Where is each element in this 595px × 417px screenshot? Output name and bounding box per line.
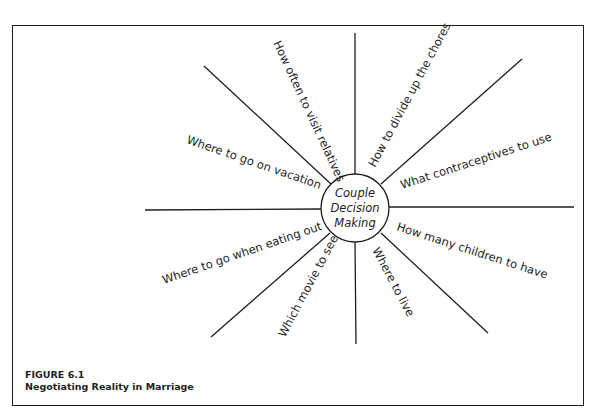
figure-title: Negotiating Reality in Marriage [25, 381, 194, 393]
decision-wheel-diagram: Couple Decision Making How often to visi… [0, 0, 595, 417]
center-label-line-1: Couple [335, 186, 375, 200]
spoke-label-divide-chores: How to divide up the chores [365, 20, 453, 169]
spoke-line-bottom [355, 242, 356, 344]
spoke-line-left [145, 209, 321, 210]
figure-caption: FIGURE 6.1 Negotiating Reality in Marria… [25, 369, 194, 393]
spoke-label-vacation: Where to go on vacation [185, 133, 323, 192]
spoke-label-movie: Which movie to see [275, 233, 341, 340]
spoke-label-children: How many children to have [395, 220, 550, 282]
spoke-label-contraceptives: What contraceptives to use [399, 130, 554, 192]
center-label-line-3: Making [334, 216, 375, 230]
center-label-line-2: Decision [331, 201, 380, 215]
spoke-label-eating-out: Where to go when eating out [160, 219, 324, 287]
figure-number: FIGURE 6.1 [25, 369, 194, 381]
spoke-label-visit-relatives: How often to visit relatives [270, 38, 348, 184]
spoke-label-where-live: Where to live [369, 245, 417, 319]
